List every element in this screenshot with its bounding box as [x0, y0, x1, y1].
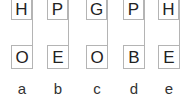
- option-label: e: [158, 80, 180, 97]
- connector-line: [68, 0, 69, 46]
- option-column-a: H O a: [11, 0, 35, 109]
- connector-line: [144, 0, 145, 46]
- option-column-e: H E e: [158, 0, 182, 109]
- top-letter-box: P: [47, 0, 68, 20]
- option-label: a: [11, 80, 33, 97]
- bottom-letter-box: E: [158, 45, 180, 69]
- top-letter-box: P: [123, 0, 144, 20]
- bottom-letter-box: O: [11, 45, 33, 69]
- option-column-b: P E b: [47, 0, 71, 109]
- bottom-letter-box: B: [123, 45, 145, 69]
- option-column-c: G O c: [86, 0, 110, 109]
- top-letter-box: H: [11, 0, 32, 20]
- bottom-letter-box: E: [47, 45, 69, 69]
- connector-line: [32, 0, 33, 46]
- option-column-d: P B d: [123, 0, 147, 109]
- top-letter-box: G: [86, 0, 107, 20]
- bottom-letter-box: O: [86, 45, 108, 69]
- top-letter-box: H: [158, 0, 179, 20]
- connector-line: [107, 0, 108, 46]
- option-label: d: [123, 80, 145, 97]
- option-label: c: [86, 80, 108, 97]
- connector-line: [179, 0, 180, 46]
- option-label: b: [47, 80, 69, 97]
